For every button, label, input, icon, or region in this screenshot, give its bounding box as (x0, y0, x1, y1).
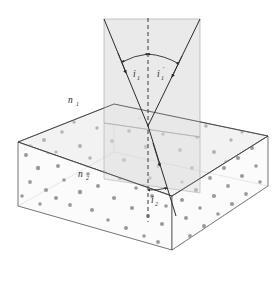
label-i1-sub: 1 (137, 75, 140, 81)
plane-of-incidence (104, 19, 200, 193)
label-n1-sub: 1 (76, 101, 79, 107)
label-n1-base: n (68, 95, 73, 105)
label-i1prime-base: i (157, 69, 160, 79)
label-n2-base: n (78, 169, 83, 179)
label-n2-sub: 2 (86, 175, 89, 181)
label-i1-base: i (133, 69, 136, 79)
optics-diagram-svg: n 1 n 2 i 1 i 1 ′ i 2 (0, 0, 280, 282)
label-i1prime-sub: 1 (161, 75, 164, 81)
label-i2-sub: 2 (155, 201, 158, 207)
plane-of-incidence-upper (104, 19, 200, 137)
label-i2-base: i (151, 195, 154, 205)
physics-figure: n 1 n 2 i 1 i 1 ′ i 2 (0, 0, 280, 282)
